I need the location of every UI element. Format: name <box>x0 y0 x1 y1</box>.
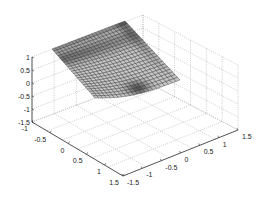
y-tick-label: 0 <box>60 147 64 154</box>
z-tick-label: 0 <box>26 80 30 87</box>
z-tick-label: 1 <box>26 54 30 61</box>
y-tick-label: 1.5 <box>109 179 119 186</box>
surface-mesh <box>52 21 180 98</box>
z-tick-label: -1 <box>24 106 30 113</box>
x-tick-label: 0 <box>185 156 189 163</box>
y-tick-label: 1 <box>97 168 101 175</box>
y-tick-label: -0.5 <box>34 136 46 143</box>
z-tick-label: -0.5 <box>18 93 30 100</box>
surface-plot-figure: 10.50-0.5-1-1.5-1-0.500.511.5-1.5-1-0.50… <box>0 0 263 197</box>
z-tick-label: 0.5 <box>20 67 30 74</box>
y-tick-label: 0.5 <box>73 157 83 164</box>
x-tick-label: -1.5 <box>127 179 139 186</box>
x-tick-label: 1 <box>223 141 227 148</box>
plot-canvas: 10.50-0.5-1-1.5-1-0.500.511.5-1.5-1-0.50… <box>0 0 263 197</box>
x-tick-label: -1 <box>146 171 152 178</box>
x-tick-label: 1.5 <box>242 133 252 140</box>
y-tick-label: -1 <box>22 125 28 132</box>
x-tick-label: -0.5 <box>165 164 177 171</box>
x-tick-label: 0.5 <box>204 148 214 155</box>
